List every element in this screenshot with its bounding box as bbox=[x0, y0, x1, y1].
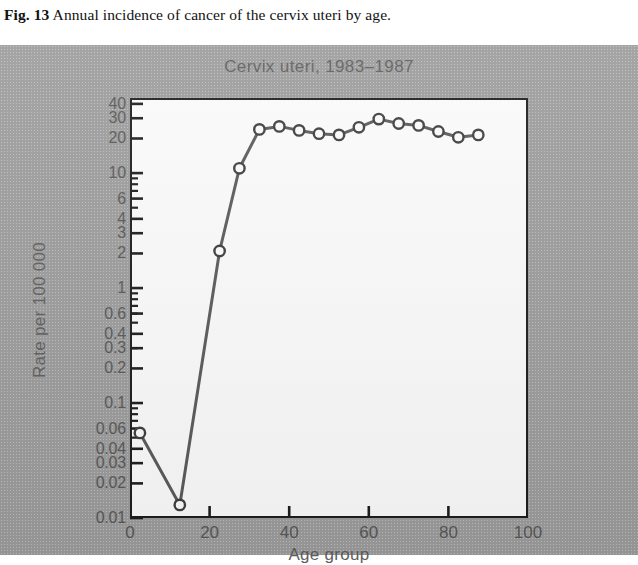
data-point bbox=[254, 124, 264, 134]
data-point bbox=[354, 122, 364, 132]
figure-number: Fig. 13 bbox=[4, 6, 49, 23]
data-point bbox=[334, 130, 344, 140]
data-point bbox=[234, 163, 244, 173]
data-point bbox=[175, 500, 185, 510]
data-point bbox=[433, 126, 443, 136]
data-point bbox=[294, 125, 304, 135]
data-point bbox=[374, 114, 384, 124]
data-point bbox=[473, 130, 483, 140]
data-point bbox=[453, 132, 463, 142]
axis-ticks bbox=[130, 104, 448, 518]
data-point bbox=[413, 120, 423, 130]
figure-caption: Fig. 13 Annual incidence of cancer of th… bbox=[4, 6, 634, 24]
figure-panel: Cervix uteri, 1983–1987 40302010643210.6… bbox=[0, 45, 638, 555]
data-point bbox=[274, 121, 284, 131]
data-point bbox=[314, 129, 324, 139]
data-point bbox=[135, 428, 145, 438]
figure-caption-text: Annual incidence of cancer of the cervix… bbox=[53, 6, 392, 23]
data-line bbox=[140, 119, 478, 505]
data-point bbox=[394, 118, 404, 128]
chart-svg bbox=[0, 45, 638, 555]
data-point bbox=[214, 246, 224, 256]
